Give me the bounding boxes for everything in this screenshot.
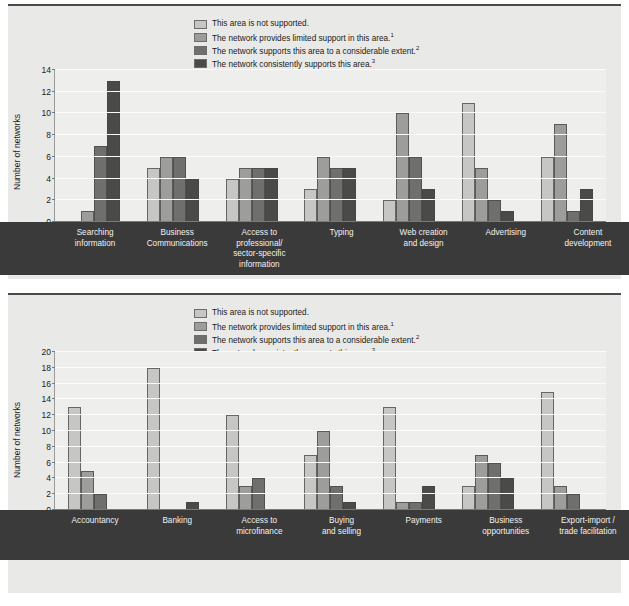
x-axis-band-top: SearchinginformationBusinessCommunicatio…: [0, 222, 629, 275]
gridline: [55, 446, 606, 447]
x-axis-category-label: BusinessCommunications: [137, 222, 217, 275]
y-axis-tick-label: 12: [42, 410, 51, 420]
legend-item: The network supports this area to a cons…: [194, 333, 419, 345]
bar: [317, 431, 330, 510]
y-axis-tick-mark: [52, 367, 55, 368]
bar: [409, 157, 422, 222]
legend-item-label: This area is not supported.: [212, 308, 309, 318]
y-axis-tick-mark: [52, 91, 55, 92]
bar: [383, 200, 396, 222]
y-axis-tick-mark: [52, 462, 55, 463]
bar: [422, 189, 435, 222]
gridline: [55, 414, 606, 415]
gridline: [55, 199, 606, 200]
legend-item-label: The network supports this area to a cons…: [212, 43, 419, 57]
gridline: [55, 351, 606, 352]
plot-area-bottom: 02468101214161820: [22, 352, 606, 510]
gridline: [55, 398, 606, 399]
bar-groups-bottom: [55, 352, 606, 510]
legend-item: The network consistently supports this a…: [194, 57, 419, 69]
legend-item-label: The network supports this area to a cons…: [212, 332, 419, 346]
bar-group: [304, 352, 356, 510]
axis-area-bottom: 02468101214161820: [54, 352, 606, 510]
y-axis-tick-label: 14: [42, 394, 51, 404]
x-axis-category-label: Typing: [301, 222, 381, 275]
gridline: [55, 112, 606, 113]
y-axis-tick-label: 6: [46, 152, 51, 162]
legend-item-label: This area is not supported.: [212, 19, 309, 29]
y-axis-tick-label: 16: [42, 379, 51, 389]
legend-item-label: The network provides limited support in …: [212, 30, 394, 44]
gridline: [55, 91, 606, 92]
x-axis-category-label: Contentdevelopment: [548, 222, 628, 275]
y-axis-tick-label: 6: [46, 458, 51, 468]
y-axis-tick-mark: [52, 134, 55, 135]
legend-swatch-icon: [194, 20, 207, 29]
legend-top: This area is not supported.The network p…: [194, 18, 419, 70]
bar: [252, 168, 265, 222]
y-axis-tick-mark: [52, 178, 55, 179]
bar: [304, 189, 317, 222]
x-axis-category-label: Access toprofessional/sector-specificinf…: [219, 222, 299, 275]
x-axis-category-label: Buyingand selling: [301, 510, 381, 560]
legend-swatch-icon: [194, 46, 207, 55]
bar: [554, 124, 567, 222]
y-axis-tick-mark: [52, 156, 55, 157]
y-axis-label-top: Number of networks: [12, 114, 22, 190]
y-axis-tick-label: 2: [46, 489, 51, 499]
gridline: [55, 156, 606, 157]
y-axis-tick-mark: [52, 414, 55, 415]
bar: [107, 81, 120, 222]
bar: [147, 368, 160, 510]
y-axis-tick-mark: [52, 430, 55, 431]
bar: [330, 486, 343, 510]
x-axis-category-label: Access tomicrofinance: [219, 510, 299, 560]
bar: [554, 486, 567, 510]
legend-item: This area is not supported.: [194, 307, 419, 319]
bar: [239, 486, 252, 510]
x-axis-category-label: Web creationand design: [384, 222, 464, 275]
bar: [462, 103, 475, 222]
x-axis-category-label: Advertising: [466, 222, 546, 275]
y-axis-tick-label: 8: [46, 130, 51, 140]
gridline: [55, 477, 606, 478]
bar: [343, 168, 356, 222]
bar: [488, 463, 501, 510]
bar: [383, 407, 396, 510]
bar: [160, 157, 173, 222]
bar: [173, 157, 186, 222]
bar: [475, 168, 488, 222]
y-axis-tick-label: 14: [42, 65, 51, 75]
legend-swatch-icon: [194, 309, 207, 318]
bar: [252, 478, 265, 510]
bar: [239, 168, 252, 222]
axis-area-top: 02468101214: [54, 70, 606, 222]
bar: [68, 407, 81, 510]
x-axis-category-label: Export-import /trade facilitation: [548, 510, 628, 560]
bar: [317, 157, 330, 222]
y-axis-tick-mark: [52, 446, 55, 447]
gridline: [55, 367, 606, 368]
bar: [94, 494, 107, 510]
y-axis-label-bottom: Number of networks: [12, 402, 22, 478]
y-axis-tick-label: 10: [42, 108, 51, 118]
bar: [330, 168, 343, 222]
gridline: [55, 69, 606, 70]
y-axis-tick-mark: [52, 199, 55, 200]
x-axis-category-label: Searchinginformation: [55, 222, 135, 275]
legend-swatch-icon: [194, 322, 207, 331]
bar: [501, 478, 514, 510]
x-axis-category-label: Payments: [384, 510, 464, 560]
y-axis-tick-label: 4: [46, 174, 51, 184]
gridline: [55, 493, 606, 494]
gridline: [55, 383, 606, 384]
y-axis-tick-mark: [52, 112, 55, 113]
y-axis-tick-mark: [52, 477, 55, 478]
bar: [94, 146, 107, 222]
legend-item: The network provides limited support in …: [194, 320, 419, 332]
legend-swatch-icon: [194, 59, 207, 68]
x-axis-category-label: Banking: [137, 510, 217, 560]
chart-page: This area is not supported.The network p…: [0, 0, 629, 606]
legend-swatch-icon: [194, 33, 207, 42]
bar: [422, 486, 435, 510]
